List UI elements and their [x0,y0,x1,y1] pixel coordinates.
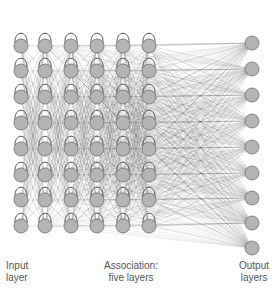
association-node [64,168,78,182]
association-node [116,142,130,156]
association-node [90,64,104,78]
association-node [38,90,52,104]
association-node [116,219,130,233]
association-node [116,90,130,104]
association-node [142,39,156,53]
connection-edges [21,43,252,248]
association-node [142,168,156,182]
output-node [245,191,259,205]
input-node [14,193,28,207]
input-node [14,64,28,78]
input-node [14,116,28,130]
association-node [90,219,104,233]
association-node [38,116,52,130]
association-node [90,168,104,182]
neural-network-diagram [0,0,279,295]
association-node [142,193,156,207]
association-node [64,116,78,130]
association-node [38,64,52,78]
input-layer-label: Input layer [6,260,40,284]
output-node [245,216,259,230]
association-node [142,116,156,130]
association-node [38,219,52,233]
association-node [142,64,156,78]
output-node [245,166,259,180]
output-node [245,140,259,154]
output-node [245,36,259,50]
association-node [38,142,52,156]
output-node [245,114,259,128]
association-node [64,219,78,233]
association-node [90,90,104,104]
output-node [245,241,259,255]
input-node [14,142,28,156]
association-node [64,90,78,104]
association-node [64,64,78,78]
output-layers-label: Output layers [234,260,274,284]
association-node [38,193,52,207]
association-node [142,142,156,156]
association-node [90,142,104,156]
association-node [116,168,130,182]
association-layers-label: Association: five layers [96,260,166,284]
association-node [90,193,104,207]
association-node [116,39,130,53]
association-node [38,39,52,53]
input-node [14,168,28,182]
association-node [64,193,78,207]
association-node [64,39,78,53]
association-node [116,193,130,207]
association-node [142,90,156,104]
association-node [142,219,156,233]
output-node [245,88,259,102]
association-node [90,116,104,130]
association-node [116,64,130,78]
input-node [14,219,28,233]
input-node [14,90,28,104]
output-node [245,62,259,76]
association-node [64,142,78,156]
association-node [116,116,130,130]
association-node [38,168,52,182]
input-node [14,39,28,53]
association-node [90,39,104,53]
